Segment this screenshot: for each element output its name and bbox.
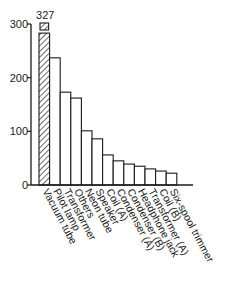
bar xyxy=(39,33,50,185)
bar xyxy=(134,166,145,185)
bar xyxy=(81,131,92,185)
bars xyxy=(39,23,177,185)
y-tick-label: 0 xyxy=(22,179,28,191)
bar xyxy=(145,169,156,185)
y-axis: 0100200300 xyxy=(10,18,31,191)
bar xyxy=(60,92,71,185)
bar xyxy=(124,164,135,185)
bar xyxy=(92,139,103,185)
category-labels: Vacuum tubePilot lampTransformerOthersNe… xyxy=(41,186,217,264)
bar xyxy=(166,173,177,185)
bar-chart: 0100200300 Vacuum tubePilot lampTransfor… xyxy=(0,0,232,282)
y-tick-label: 300 xyxy=(10,18,28,30)
overflow-value-label: 327 xyxy=(36,9,54,21)
bar xyxy=(50,58,61,185)
bar xyxy=(103,155,114,185)
bar xyxy=(113,161,124,185)
y-tick-label: 100 xyxy=(10,125,28,137)
y-tick-label: 200 xyxy=(10,72,28,84)
bar xyxy=(71,98,82,185)
bar xyxy=(156,171,167,185)
bar-overflow-segment xyxy=(40,23,49,30)
